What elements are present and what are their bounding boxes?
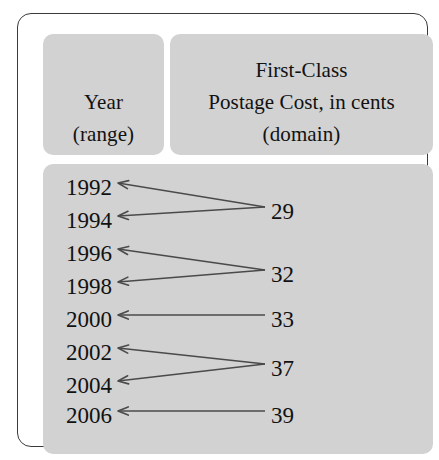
year-label: 1996 (40, 242, 112, 265)
year-label: 2006 (40, 404, 112, 427)
year-label: 1992 (40, 176, 112, 199)
value-column: 2932333739 (271, 0, 331, 460)
value-label: 33 (271, 308, 294, 331)
year-label: 2000 (40, 308, 112, 331)
year-column: 19921994199619982000200220042006 (40, 0, 112, 460)
value-label: 39 (271, 404, 294, 427)
year-label: 1998 (40, 275, 112, 298)
year-label: 2002 (40, 341, 112, 364)
year-label: 1994 (40, 209, 112, 232)
value-label: 29 (271, 200, 294, 223)
value-label: 32 (271, 263, 294, 286)
value-label: 37 (271, 357, 294, 380)
year-label: 2004 (40, 374, 112, 397)
